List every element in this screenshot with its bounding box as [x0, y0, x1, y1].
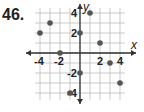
x-axis-arrow-icon	[26, 50, 31, 56]
x-axis-label: x	[130, 38, 138, 52]
y-tick-label: -2	[67, 67, 77, 79]
x-tick-label: -2	[54, 55, 64, 67]
data-point	[57, 50, 63, 56]
data-point	[107, 60, 113, 66]
x-tick-label: 4	[117, 55, 124, 67]
y-tick-label: 2	[71, 27, 77, 39]
data-point	[77, 30, 83, 36]
data-point	[97, 40, 103, 46]
x-tick-label: -4	[34, 55, 45, 67]
data-point	[87, 10, 93, 16]
y-tick-label: 4	[71, 7, 78, 19]
scatter-plot: xy-4-22442-2-4	[0, 0, 144, 112]
data-point	[47, 20, 53, 26]
x-tick-label: 2	[97, 55, 103, 67]
y-axis-arrow-icon	[77, 99, 83, 104]
data-point	[77, 70, 83, 76]
data-point	[117, 80, 123, 86]
data-point	[67, 90, 73, 96]
data-point	[37, 30, 43, 36]
